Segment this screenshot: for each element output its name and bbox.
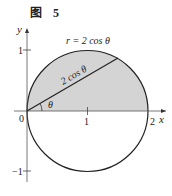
origin-label: 0 bbox=[19, 113, 24, 124]
angle-label: θ bbox=[48, 99, 53, 110]
y-tick-label-neg1: −1 bbox=[12, 166, 23, 177]
y-axis-label: y bbox=[16, 23, 22, 35]
x-tick-label-1: 1 bbox=[84, 116, 89, 127]
x-axis-label: x bbox=[158, 113, 164, 125]
equation-label: r = 2 cos θ bbox=[66, 35, 110, 46]
x-tick-label-2: 2 bbox=[150, 116, 155, 127]
y-axis-arrow-icon bbox=[25, 28, 29, 33]
y-tick-label-1: 1 bbox=[18, 45, 23, 56]
shaded-upper-half-disk bbox=[27, 51, 148, 112]
polar-diagram: y x 0 1 2 1 −1 r = 2 cos θ 2 cos θ θ bbox=[0, 0, 172, 196]
